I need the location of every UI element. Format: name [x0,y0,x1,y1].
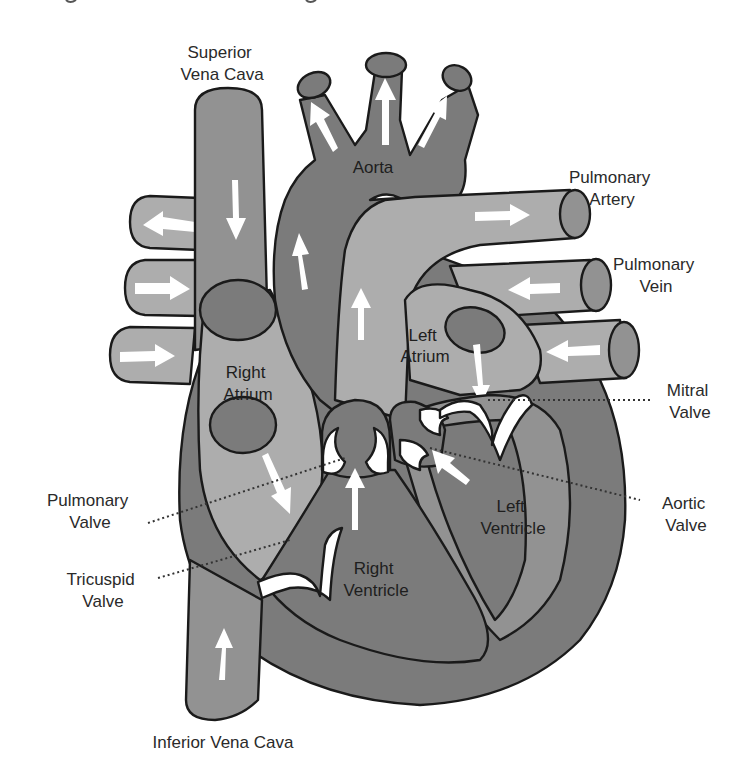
label-superior-vena-cava: Superior Vena Cava [180,43,264,84]
inferior-vena-cava-opening [210,397,276,453]
label-inferior-vena-cava: Inferior Vena Cava [153,733,294,752]
pulmonary-artery-end [560,190,590,238]
left-pulmonary-branches [110,196,200,384]
aortic-branch-1 [294,67,335,103]
label-tricuspid-valve: Tricuspid Valve [66,570,139,611]
label-pulmonary-vein: Pulmonary Vein [613,255,699,296]
label-mitral-valve: Mitral Valve [667,381,713,422]
label-pulmonary-valve: Pulmonary Valve [47,491,133,532]
superior-vena-cava-opening [200,280,276,340]
label-aorta: Aorta [353,158,394,177]
heart-diagram: Superior Vena Cava Aorta Pulmonary Arter… [0,0,746,770]
aortic-branch-2 [366,53,406,77]
cropped-caption-remnant [66,0,316,2]
label-aortic-valve: Aortic Valve [662,494,710,535]
